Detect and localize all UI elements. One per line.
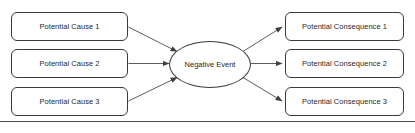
edge-event-to-consequence-3 [243,78,282,102]
node-label: Potential Consequence 1 [302,22,387,31]
node-label: Potential Consequence 2 [302,59,387,68]
edge-event-to-consequence-1 [243,27,282,52]
footer-divider [0,121,415,122]
node-label: Negative Event [185,60,236,69]
node-potential-cause-3: Potential Cause 3 [11,87,128,116]
edge-cause-1-to-event [129,27,178,52]
node-potential-cause-1: Potential Cause 1 [11,12,128,41]
node-label: Potential Cause 3 [39,97,99,106]
node-label: Potential Cause 1 [39,22,99,31]
node-potential-consequence-1: Potential Consequence 1 [285,12,404,41]
node-label: Potential Cause 2 [39,59,99,68]
edge-cause-3-to-event [129,78,178,102]
node-negative-event: Negative Event [169,41,251,88]
node-potential-cause-2: Potential Cause 2 [11,49,128,78]
node-label: Potential Consequence 3 [302,97,387,106]
node-potential-consequence-3: Potential Consequence 3 [285,87,404,116]
node-potential-consequence-2: Potential Consequence 2 [285,49,404,78]
